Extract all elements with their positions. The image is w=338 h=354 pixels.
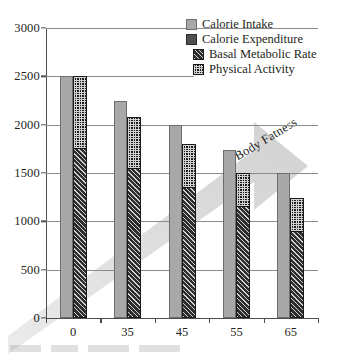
y-tick-label: 500 [21, 262, 40, 277]
legend-swatch-icon [193, 49, 204, 60]
x-tick-mark [100, 318, 101, 323]
legend-swatch-icon [193, 64, 204, 75]
bar-calorie-intake [169, 125, 182, 318]
legend-item-calorie-expenditure: Calorie Expenditure [186, 33, 317, 46]
segment-physical-activity [74, 77, 86, 149]
x-tick-label: 0 [70, 325, 76, 340]
bar-group [114, 28, 141, 318]
legend-swatch-icon [186, 34, 197, 45]
x-tick-mark [264, 318, 265, 323]
x-tick-mark [318, 318, 319, 323]
x-tick-mark [209, 318, 210, 323]
segment-physical-activity [183, 145, 195, 188]
bar-calorie-intake [114, 101, 127, 319]
figure-caption-partial [10, 345, 180, 352]
segment-basal-metabolic-rate [237, 207, 249, 317]
legend-label: Calorie Intake [202, 18, 273, 31]
legend-label: Calorie Expenditure [202, 33, 303, 46]
x-tick-label: 45 [176, 325, 189, 340]
legend-item-basal-metabolic-rate: Basal Metabolic Rate [186, 48, 317, 61]
y-tick-mark [41, 27, 46, 28]
x-axis-line [46, 318, 318, 319]
x-tick-mark [46, 318, 47, 323]
segment-basal-metabolic-rate [291, 232, 303, 317]
segment-basal-metabolic-rate [183, 188, 195, 317]
segment-physical-activity [128, 118, 140, 169]
y-tick-mark [41, 221, 46, 222]
bar-calorie-expenditure [73, 76, 87, 318]
x-tick-label: 55 [230, 325, 243, 340]
segment-physical-activity [291, 199, 303, 232]
chart-legend: Calorie Intake Calorie Expenditure Basal… [186, 18, 317, 76]
bar-calorie-intake [277, 173, 290, 318]
y-tick-mark [41, 269, 46, 270]
calorie-balance-chart: Body Fatness 050010001500200025003000 03… [0, 0, 338, 354]
legend-item-physical-activity: Physical Activity [186, 63, 317, 76]
legend-label: Basal Metabolic Rate [209, 48, 317, 61]
y-tick-label: 2500 [14, 69, 40, 84]
bar-calorie-expenditure [290, 198, 304, 318]
segment-basal-metabolic-rate [74, 149, 86, 317]
segment-basal-metabolic-rate [128, 169, 140, 317]
x-tick-label: 35 [121, 325, 134, 340]
y-tick-label: 1000 [14, 214, 40, 229]
legend-swatch-icon [186, 19, 197, 30]
bar-calorie-expenditure [236, 173, 250, 318]
bar-calorie-intake [60, 76, 73, 318]
y-tick-label: 1500 [14, 166, 40, 181]
y-tick-label: 3000 [14, 21, 40, 36]
bar-calorie-expenditure [182, 144, 196, 318]
legend-item-calorie-intake: Calorie Intake [186, 18, 317, 31]
bar-calorie-intake [223, 150, 236, 318]
bar-group [60, 28, 87, 318]
legend-label: Physical Activity [209, 63, 295, 76]
y-tick-mark [41, 172, 46, 173]
y-tick-mark [41, 76, 46, 77]
y-tick-label: 2000 [14, 117, 40, 132]
x-tick-mark [155, 318, 156, 323]
segment-physical-activity [237, 174, 249, 207]
x-tick-label: 65 [285, 325, 298, 340]
bar-calorie-expenditure [127, 117, 141, 318]
y-tick-mark [41, 124, 46, 125]
y-tick-label: 0 [34, 311, 40, 326]
